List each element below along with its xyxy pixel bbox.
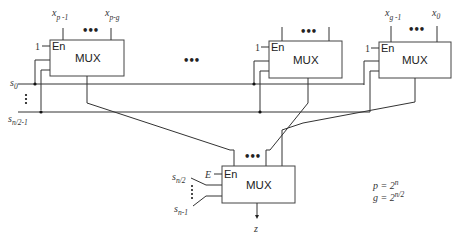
s-n-1-label: sn-1 xyxy=(174,203,188,217)
equations: p = 2n g = 2n/2 xyxy=(372,178,405,203)
mux-middle-enable-value: 1 xyxy=(255,42,260,53)
mux-right-label: MUX xyxy=(402,54,428,66)
mux-left: MUX En 1 ••• xp -1 xp-g xyxy=(35,7,230,150)
mux-second-level-label: MUX xyxy=(246,179,272,191)
mux-middle-inputs-ellipsis: ••• xyxy=(300,26,316,37)
input-x-0-label: x0 xyxy=(431,7,440,21)
equation-g: g = 2n/2 xyxy=(373,190,405,203)
input-x-p-1-label: xp -1 xyxy=(51,7,68,22)
s-n2-1-label: sn/2-1 xyxy=(8,113,28,127)
select-bus: s0 sn/2-1 xyxy=(8,77,370,127)
mux-middle-enable-label: En xyxy=(271,41,284,53)
output-arrow-icon xyxy=(255,215,259,219)
mux-right-inputs-ellipsis: ••• xyxy=(408,24,424,35)
mux-second-level-enable-label: En xyxy=(224,168,237,180)
second-level-inputs-ellipsis: ••• xyxy=(244,151,260,162)
mux-tree-diagram: MUX En 1 ••• xp -1 xp-g MUX En 1 ••• MUX… xyxy=(0,0,461,244)
mux-left-label: MUX xyxy=(75,52,101,64)
mux-middle-label: MUX xyxy=(293,54,319,66)
mux-left-enable-label: En xyxy=(52,40,65,52)
mux-middle: MUX En 1 ••• xyxy=(254,26,342,150)
output-z-label: z xyxy=(253,223,258,234)
mux-left-enable-value: 1 xyxy=(35,41,40,52)
input-x-p-g-label: xp-g xyxy=(104,7,120,22)
mux-left-inputs-ellipsis: ••• xyxy=(82,25,98,36)
mux-right-enable-label: En xyxy=(381,42,394,54)
mux-second-level: MUX En E sn/2 sn-1 z xyxy=(172,166,295,234)
s-n2-label: sn/2 xyxy=(172,171,186,185)
input-x-g-1-label: xg -1 xyxy=(384,7,401,22)
s0-label: s0 xyxy=(10,77,18,91)
mux-right-enable-value: 1 xyxy=(365,43,370,54)
muxes-ellipsis: ••• xyxy=(183,55,199,66)
enable-E-label: E xyxy=(204,169,211,180)
